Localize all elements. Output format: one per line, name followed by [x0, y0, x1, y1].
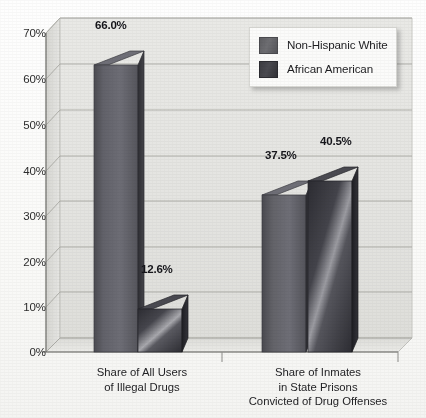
y-tick-label-70: 70%	[4, 28, 46, 40]
category-label-group1-line2: of Illegal Drugs	[52, 380, 232, 395]
category-label-group2: Share of Inmates in State Prisons Convic…	[218, 365, 418, 409]
y-tick-label-40: 40%	[4, 166, 46, 178]
y-tick-label-30: 30%	[4, 211, 46, 223]
category-label-group1-line1: Share of All Users	[52, 365, 232, 380]
y-tick-label-0: 0%	[4, 347, 46, 359]
legend-swatch-african-american	[259, 61, 278, 78]
category-label-group2-line3: Convicted of Drug Offenses	[218, 394, 418, 409]
bar-front-face	[94, 65, 138, 352]
legend-item-african-american: African American	[259, 59, 388, 79]
y-axis-labels: 70% 60% 50% 40% 30% 20% 10% 0%	[0, 0, 46, 418]
bar-front-face	[138, 309, 182, 352]
axis-depth-panel	[46, 18, 60, 352]
bar-side-face	[352, 167, 358, 352]
y-tick-label-60: 60%	[4, 74, 46, 86]
bar-front-face	[262, 195, 306, 352]
legend-item-non-hispanic-white: Non-Hispanic White	[259, 35, 388, 55]
bar-front-face	[308, 181, 352, 352]
category-label-group1: Share of All Users of Illegal Drugs	[52, 365, 232, 394]
category-label-group2-line1: Share of Inmates	[218, 365, 418, 380]
bar-top-face	[308, 167, 358, 181]
bar-top-face	[138, 295, 188, 309]
bar-group2-african-american	[304, 154, 364, 356]
value-label-group1-african-american: 12.6%	[141, 263, 173, 275]
bar-side-face	[182, 295, 188, 352]
value-label-group2-non-hispanic-white: 37.5%	[265, 149, 297, 161]
legend-label-non-hispanic-white: Non-Hispanic White	[287, 39, 388, 51]
legend-swatch-non-hispanic-white	[259, 37, 278, 54]
value-label-group2-african-american: 40.5%	[320, 135, 352, 147]
chart-legend: Non-Hispanic White African American	[249, 27, 397, 87]
bar-top-face	[94, 51, 144, 65]
legend-label-african-american: African American	[287, 63, 373, 75]
bar-chart: 70% 60% 50% 40% 30% 20% 10% 0%	[0, 0, 426, 418]
y-tick-label-50: 50%	[4, 120, 46, 132]
y-tick-label-10: 10%	[4, 302, 46, 314]
y-tick-label-20: 20%	[4, 257, 46, 269]
bar-group1-african-american	[134, 282, 194, 356]
category-label-group2-line2: in State Prisons	[218, 380, 418, 395]
value-label-group1-non-hispanic-white: 66.0%	[95, 19, 127, 31]
